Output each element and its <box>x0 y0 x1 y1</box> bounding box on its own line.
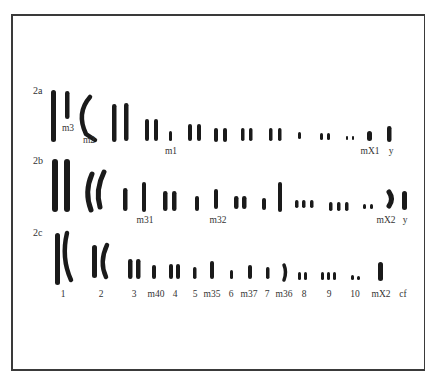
chromosome-label: m3 <box>62 123 74 133</box>
chromosome-label: 1 <box>61 289 66 299</box>
chromosome-label: 9 <box>327 289 332 299</box>
chromosome-label: 2 <box>99 289 104 299</box>
row-label-2c: 2c <box>33 227 42 238</box>
chromosome-label: m1 <box>165 146 177 156</box>
chromosome-label: m2 <box>83 135 95 145</box>
chromosome-label: 6 <box>229 289 234 299</box>
chromosome-label: 5 <box>193 289 198 299</box>
chromosome-label: mX1 <box>361 146 380 156</box>
chromosome-label: 8 <box>302 289 307 299</box>
chromosome-label: m36 <box>276 289 293 299</box>
chromosome-label: 4 <box>173 289 178 299</box>
karyotype-chromosomes <box>0 0 439 381</box>
chromosome-label: mX2 <box>372 289 391 299</box>
row-label-2a: 2a <box>33 85 42 96</box>
chromosome-label: 3 <box>132 289 137 299</box>
chromosome-label: y <box>389 146 394 156</box>
chromosome-label: y <box>403 215 408 225</box>
chromosome-label: m35 <box>204 289 221 299</box>
chromosome-label: m37 <box>241 289 258 299</box>
chromosome-label: mX2 <box>377 215 396 225</box>
chromosome-label: 10 <box>350 289 360 299</box>
chromosome-label: m32 <box>210 215 227 225</box>
row-label-2b: 2b <box>33 155 43 166</box>
chromosome-label: m31 <box>137 215 154 225</box>
chromosome-label: cf <box>399 289 406 299</box>
chromosome-label: 7 <box>265 289 270 299</box>
chromosome-label: m40 <box>148 289 165 299</box>
